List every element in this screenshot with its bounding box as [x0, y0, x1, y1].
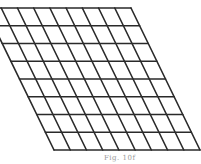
figure-caption: Fig. 10f [104, 154, 136, 162]
skewed-grid-diagram [0, 0, 201, 164]
